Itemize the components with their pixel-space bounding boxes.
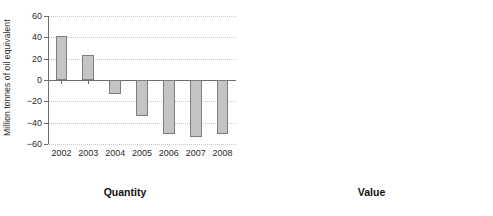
bar — [82, 55, 94, 80]
chart-title-quantity: Quantity — [0, 186, 250, 198]
chart-panel-quantity: Million tonnes of oil equivalent 6040200… — [0, 0, 250, 216]
chart-title-value: Value — [250, 186, 493, 198]
x-axis-label: 2008 — [213, 148, 233, 158]
x-axis-label: 2006 — [159, 148, 179, 158]
y-axis-line-quantity — [48, 16, 49, 144]
x-axis-label: 2002 — [51, 148, 71, 158]
bar — [217, 80, 229, 134]
y-axis-tick-label: 40 — [32, 32, 42, 42]
y-axis-tick-label: 0 — [37, 75, 42, 85]
bar — [163, 80, 175, 134]
y-axis-tick-label: −40 — [27, 118, 42, 128]
y-axis-tick-label: −60 — [27, 139, 42, 149]
chart-panel-value: £ billion (f.o.b) 1050−5−10−15 200220032… — [250, 0, 493, 216]
figure-two-panel-bar-charts: Million tonnes of oil equivalent 6040200… — [0, 0, 493, 216]
bar — [56, 36, 68, 80]
x-axis-label: 2007 — [186, 148, 206, 158]
y-axis-tick-label: 60 — [32, 11, 42, 21]
y-axis-title-quantity: Million tonnes of oil equivalent — [2, 8, 12, 148]
gridline — [48, 144, 236, 145]
x-axis-label: 2003 — [78, 148, 98, 158]
bars-quantity — [48, 16, 236, 144]
x-axis-labels-quantity: 2002200320042005200620072008 — [48, 148, 236, 160]
bar — [109, 80, 121, 94]
bar — [136, 80, 148, 116]
plot-area-quantity: 6040200−20−40−60 20022003200420052006200… — [48, 16, 236, 144]
bar — [190, 80, 202, 137]
x-axis-label: 2004 — [105, 148, 125, 158]
y-axis-tick-label: −20 — [27, 96, 42, 106]
x-axis-label: 2005 — [132, 148, 152, 158]
y-axis-tick — [44, 144, 48, 145]
y-axis-tick-label: 20 — [32, 54, 42, 64]
